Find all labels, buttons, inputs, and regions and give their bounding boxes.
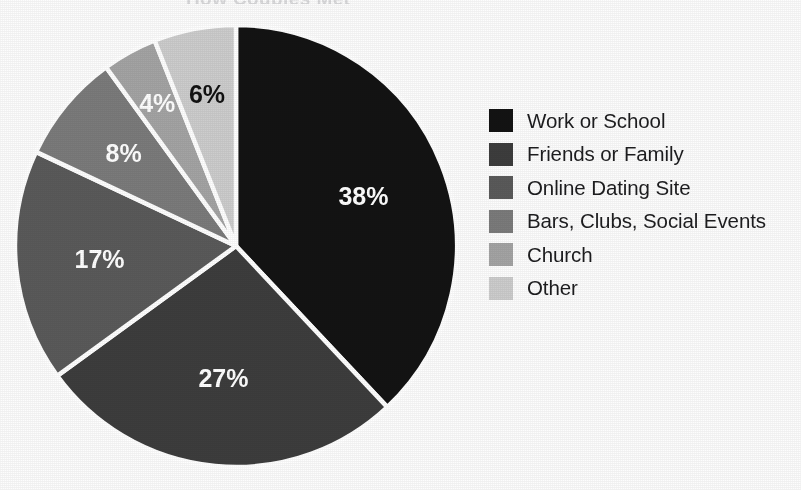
legend-item[interactable]: Work or School [489, 104, 766, 138]
legend-swatch-icon [489, 176, 513, 199]
legend-item[interactable]: Friends or Family [489, 138, 766, 172]
pie-slice-value-label: 27% [198, 364, 248, 392]
chart-title-ghost: How Couples Met [186, 0, 616, 4]
legend-item-label: Other [527, 278, 578, 299]
legend-item[interactable]: Other [489, 272, 766, 306]
legend-item-label: Church [527, 245, 593, 266]
legend-swatch-icon [489, 143, 513, 166]
pie-slice-value-label: 6% [189, 80, 225, 108]
legend-swatch-icon [489, 109, 513, 132]
pie-slice-value-label: 38% [338, 182, 388, 210]
legend-item[interactable]: Bars, Clubs, Social Events [489, 205, 766, 239]
pie-svg: 38%27%17%8%4%6% [14, 24, 458, 468]
legend-item-label: Work or School [527, 111, 665, 132]
legend-item[interactable]: Church [489, 238, 766, 272]
pie-slice-value-label: 17% [75, 245, 125, 273]
legend-swatch-icon [489, 243, 513, 266]
legend-item-label: Online Dating Site [527, 178, 690, 199]
legend-item[interactable]: Online Dating Site [489, 171, 766, 205]
pie-chart: 38%27%17%8%4%6% [14, 24, 458, 468]
legend-item-label: Bars, Clubs, Social Events [527, 211, 766, 232]
legend-swatch-icon [489, 277, 513, 300]
pie-slice-value-label: 8% [106, 139, 142, 167]
chart-legend: Work or SchoolFriends or FamilyOnline Da… [489, 104, 766, 305]
legend-swatch-icon [489, 210, 513, 233]
pie-slice-value-label: 4% [139, 89, 175, 117]
legend-item-label: Friends or Family [527, 144, 684, 165]
pie-chart-page: How Couples Met 38%27%17%8%4%6% Work or … [0, 0, 801, 490]
